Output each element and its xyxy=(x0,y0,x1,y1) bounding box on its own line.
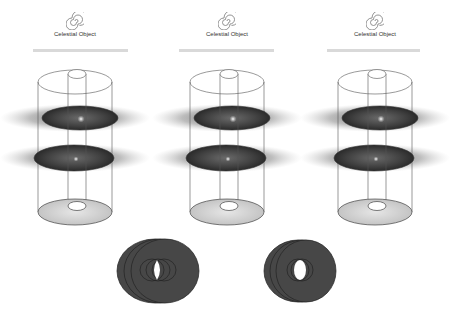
panel-caption: Celestial Object xyxy=(300,31,450,37)
spiral-icon xyxy=(66,12,84,30)
panel-3: Celestial Object xyxy=(300,0,450,230)
divider xyxy=(327,49,420,52)
divider xyxy=(179,49,274,52)
ring-stacks xyxy=(0,230,453,309)
panel-caption: Celestial Object xyxy=(0,31,150,37)
cylinder-diagram xyxy=(152,60,302,230)
offset-ring-stack-left xyxy=(117,239,199,303)
cylinder-diagram xyxy=(300,60,450,230)
panel-caption: Celestial Object xyxy=(152,31,302,37)
panel-1: Celestial Object xyxy=(0,0,150,230)
cylinder-diagram xyxy=(0,60,150,230)
panel-2: Celestial Object xyxy=(152,0,302,230)
spiral-icon xyxy=(366,12,384,30)
divider xyxy=(33,49,128,52)
offset-ring-stack-right xyxy=(264,240,336,302)
spiral-icon xyxy=(218,12,236,30)
